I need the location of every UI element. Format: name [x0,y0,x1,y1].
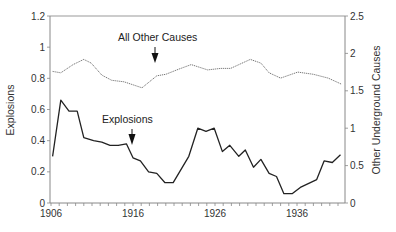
y2-tick-label: 1.5 [350,85,364,96]
y-tick-label: 1.2 [31,11,45,22]
all-other-causes-line [53,59,342,87]
y-tick-label: 1 [39,42,45,53]
right-y-axis-title: Other Underground Causes [370,46,382,175]
y-tick-label: 0.8 [31,73,45,84]
x-axis-tick-labels: 1906191619261936 [40,208,309,219]
x-tick-label: 1926 [204,208,227,219]
annotation-all-other-causes: All Other Causes [118,31,197,63]
x-tick-label: 1916 [122,208,145,219]
left-y-axis-ticks: 00.20.40.60.811.2 [31,11,50,209]
annotation-explosions: Explosions [102,113,153,145]
y-tick-label: 0.6 [31,104,45,115]
y2-tick-label: 0.5 [350,160,364,171]
explosions-line [53,100,341,194]
annotation-all-other-causes-label: All Other Causes [118,31,197,43]
arrow-down-icon [152,53,159,63]
y-tick-label: 0.4 [31,135,45,146]
arrow-down-icon [129,134,136,145]
plot-frame [50,16,345,203]
y2-tick-label: 2 [350,48,356,59]
left-y-axis-title: Explosions [4,85,16,136]
y2-tick-label: 0 [350,198,356,209]
x-tick-label: 1936 [286,208,309,219]
y-tick-label: 0.2 [31,166,45,177]
y-tick-label: 0 [39,198,45,209]
dual-axis-line-chart: 1906191619261936 00.20.40.60.811.2 00.51… [0,0,396,232]
y2-tick-label: 1 [350,123,356,134]
annotation-explosions-label: Explosions [102,113,153,125]
y2-tick-label: 2.5 [350,11,364,22]
right-y-axis-ticks: 00.511.522.5 [345,11,364,209]
x-tick-label: 1906 [40,208,63,219]
